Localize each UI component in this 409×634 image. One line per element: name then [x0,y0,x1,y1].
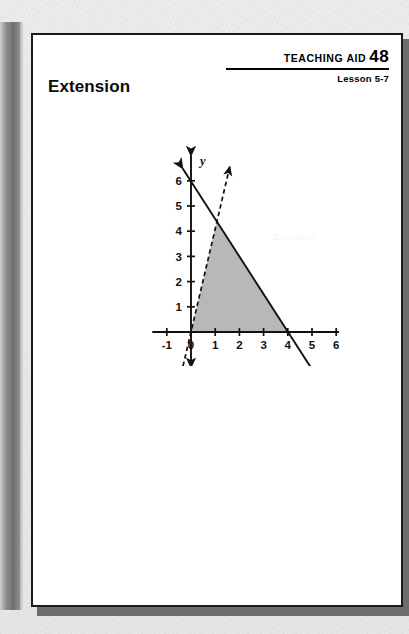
y-tick-label: 6 [176,175,182,187]
y-axis-label: y [198,154,206,168]
x-tick-label: 5 [309,339,316,351]
x-tick-label: 3 [260,339,266,351]
teaching-aid-line: TEACHING AID48 [226,47,389,67]
teaching-aid-label: TEACHING AID [284,52,367,64]
header-rule: TEACHING AID48 [226,47,389,70]
page-title: Extension [48,77,130,97]
x-tick-label: 4 [285,339,292,351]
x-tick-label: 2 [236,339,242,351]
y-tick-label: 4 [176,225,183,237]
book-spine-edge [20,22,23,610]
y-tick-label: 2 [176,276,182,288]
x-tick-label: -1 [162,339,173,351]
y-tick-label: 5 [176,200,183,212]
page-header: TEACHING AID48 Lesson 5-7 [226,47,389,84]
book-spine-shadow [0,22,22,610]
x-tick-label: 6 [333,339,339,351]
solid-boundary-line [183,168,321,366]
solution-region [191,221,288,332]
graph-canvas: -10123456123456xy [129,106,339,366]
x-tick-label: 1 [212,339,219,351]
lesson-label: Lesson 5-7 [226,73,389,84]
teaching-aid-number: 48 [369,47,389,66]
y-tick-label: 1 [176,301,183,313]
y-tick-label: 3 [176,251,182,263]
worksheet-page: TEACHING AID48 Lesson 5-7 Extension Exer… [31,33,403,607]
coordinate-graph: -10123456123456xy [129,106,339,366]
